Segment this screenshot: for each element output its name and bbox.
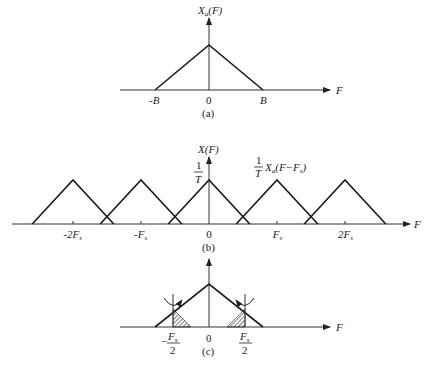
tick-label: 2Fs	[338, 228, 353, 242]
tick-fs-denominator: 2	[242, 344, 248, 356]
replica-triangle	[100, 180, 182, 224]
sampling-spectrum-figure: Xa(F) F -B 0 B (a) -2Fs-Fs0Fs2Fs X(F) 1 …	[0, 0, 425, 369]
aliased-region-right	[227, 309, 245, 327]
replica-triangle	[32, 180, 114, 224]
y-label-a: Xa(F)	[197, 4, 223, 18]
caption-a: (a)	[202, 107, 215, 120]
replica-label-expression: Xa(F−Fs)	[264, 161, 307, 175]
tick-minus-sign-c: −	[161, 335, 167, 347]
replica-triangle	[236, 180, 318, 224]
replica-label-numerator: 1	[256, 154, 262, 166]
panel-b: -2Fs-Fs0Fs2Fs X(F) 1 T 1 T Xa(F−Fs) F (b…	[12, 143, 421, 254]
tick-label-B: B	[260, 94, 267, 106]
replica-label-denominator: T	[255, 167, 262, 179]
panel-a: Xa(F) F -B 0 B (a)	[120, 4, 343, 120]
tick-minus-fs-numerator: Fs	[167, 330, 178, 344]
tick-fs-numerator: Fs	[239, 330, 250, 344]
replica-triangle	[304, 180, 386, 224]
tick-label: -Fs	[134, 228, 147, 242]
y-label-b: X(F)	[197, 143, 219, 156]
caption-c: (c)	[202, 345, 215, 358]
caption-b: (b)	[202, 241, 215, 254]
x-label-c: F	[335, 321, 343, 333]
peak-label-denominator: T	[195, 173, 202, 185]
peak-label-numerator: 1	[196, 159, 202, 171]
tick-label-zero-a: 0	[206, 94, 212, 106]
panel-c: F − Fs 2 0 Fs 2 (c)	[120, 259, 343, 358]
tick-label: 0	[206, 228, 212, 240]
tick-label: -2Fs	[63, 228, 82, 242]
aliased-region-left	[173, 309, 191, 327]
x-label-b: F	[413, 218, 421, 230]
x-label-a: F	[335, 84, 343, 96]
tick-label-minus-B: -B	[149, 94, 160, 106]
tick-label: Fs	[272, 228, 283, 242]
tick-minus-fs-denominator: 2	[170, 344, 176, 356]
tick-label-zero-c: 0	[206, 332, 212, 344]
